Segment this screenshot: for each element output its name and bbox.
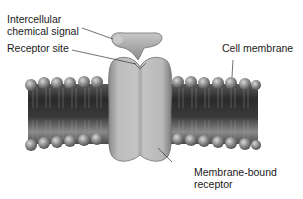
cell-membrane-leader-line xyxy=(232,60,233,77)
receptor-site-leader-line xyxy=(72,50,136,64)
label-line: chemical signal xyxy=(7,25,79,37)
chemical-signal xyxy=(112,33,162,60)
label-receptor-site: Receptor site xyxy=(7,42,69,54)
label-line: Intercellular xyxy=(7,13,79,25)
label-line: Membrane-bound xyxy=(194,166,277,178)
membrane-bound-receptor xyxy=(109,57,172,161)
label-membrane-bound-receptor: Membrane-bound receptor xyxy=(194,166,277,190)
label-intercellular-chemical-signal: Intercellular chemical signal xyxy=(7,13,79,37)
label-line: receptor xyxy=(194,178,277,190)
signal-leader-line xyxy=(82,28,113,39)
label-cell-membrane: Cell membrane xyxy=(222,42,293,54)
